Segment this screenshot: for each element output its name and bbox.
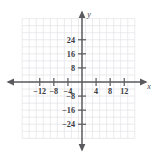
x-axis-arrow-left-icon <box>7 79 15 86</box>
x-tick-label: 12 <box>120 87 128 96</box>
y-tick-label: −8 <box>66 92 75 101</box>
y-tick-label: −16 <box>62 106 75 115</box>
x-tick-label: −8 <box>49 87 58 96</box>
y-axis-arrow-down-icon <box>79 144 86 152</box>
y-tick-label: 8 <box>71 64 75 73</box>
x-axis-label: x <box>146 82 151 91</box>
y-axis-arrow-up-icon <box>79 11 86 19</box>
plot-canvas: −12−8−4481224168−8−16−24 x y <box>0 0 157 155</box>
coordinate-plane-figure: −12−8−4481224168−8−16−24 x y <box>0 0 157 155</box>
grid-lines <box>22 19 135 139</box>
y-tick-label: −24 <box>62 120 75 129</box>
x-tick-label: 4 <box>94 87 98 96</box>
y-tick-label: 16 <box>67 50 75 59</box>
x-tick-label: −12 <box>33 87 46 96</box>
y-axis-label: y <box>86 10 91 19</box>
x-tick-label: 8 <box>108 87 112 96</box>
axis-lines <box>7 11 148 152</box>
y-tick-label: 24 <box>67 36 75 45</box>
